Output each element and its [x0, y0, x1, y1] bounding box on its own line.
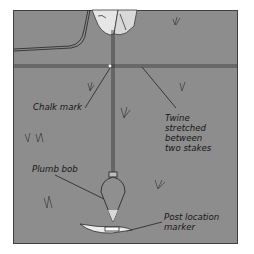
twine — [14, 65, 237, 67]
post-location-marker-label: Post location marker — [164, 212, 219, 232]
plumb-line — [112, 30, 114, 172]
post-location-marker-icon — [80, 224, 132, 233]
post-label-line-1: Post location — [164, 212, 219, 222]
twine-label-line-4: two stakes — [165, 143, 211, 153]
post-label-line-2: marker — [164, 222, 219, 232]
plumb-bob-label: Plumb bob — [32, 164, 78, 174]
chalk-mark — [109, 65, 112, 68]
twine-label-line-2: stretched — [165, 123, 211, 133]
twine-label: Twine stretched between two stakes — [165, 113, 211, 153]
twine-label-line-3: between — [165, 133, 211, 143]
grass-tufts — [25, 17, 185, 208]
hand-icon — [92, 10, 137, 35]
hose-line — [14, 10, 90, 51]
twine-label-line-1: Twine — [165, 113, 211, 123]
chalk-mark-label: Chalk mark — [33, 102, 82, 112]
plumb-bob-icon — [101, 172, 125, 222]
